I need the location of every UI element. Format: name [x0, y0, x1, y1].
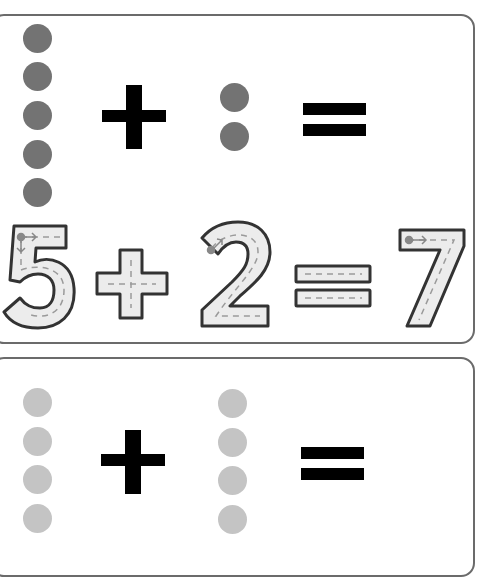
- counting-dot: [220, 83, 249, 112]
- counting-dot: [23, 465, 52, 494]
- counting-dot: [220, 122, 249, 151]
- trace-digit-2: [202, 222, 270, 326]
- counting-dot: [23, 62, 52, 91]
- counting-dot: [218, 505, 247, 534]
- counting-dot: [218, 389, 247, 418]
- counting-dot: [23, 178, 52, 207]
- tracing-equation: [0, 210, 477, 335]
- trace-digit-5: [4, 226, 74, 328]
- counting-dot: [23, 101, 52, 130]
- counting-dot: [23, 140, 52, 169]
- trace-digit-7: [400, 230, 464, 326]
- counting-dot: [23, 504, 52, 533]
- counting-dot: [23, 388, 52, 417]
- counting-dot: [218, 428, 247, 457]
- counting-dot: [23, 427, 52, 456]
- counting-dot: [218, 466, 247, 495]
- counting-dot: [23, 24, 52, 53]
